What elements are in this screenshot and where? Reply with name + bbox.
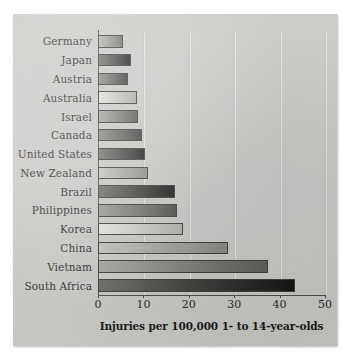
category-label: Japan: [61, 54, 92, 66]
bar: [98, 223, 183, 236]
gridline-50: [325, 32, 327, 295]
category-label: Israel: [61, 111, 92, 123]
bar: [98, 167, 148, 180]
category-label: China: [60, 242, 92, 254]
bar-row: Canada: [98, 126, 325, 145]
bar-row: Brazil: [98, 182, 325, 201]
bar-row: Vietnam: [98, 257, 325, 276]
bar-row: Philippines: [98, 201, 325, 220]
bar: [98, 54, 131, 67]
bar: [98, 185, 175, 198]
bar: [98, 148, 145, 161]
bar: [98, 91, 137, 104]
category-label: Vietnam: [47, 261, 92, 273]
category-label: South Africa: [24, 280, 92, 292]
category-label: Brazil: [60, 186, 92, 198]
bar-row: United States: [98, 145, 325, 164]
bar-row: China: [98, 239, 325, 258]
category-label: Germany: [43, 35, 92, 47]
bar: [98, 260, 268, 273]
plot-area: GermanyJapanAustriaAustraliaIsraelCanada…: [98, 32, 325, 295]
bar-row: Australia: [98, 88, 325, 107]
bar-row: South Africa: [98, 276, 325, 295]
x-tick-label: 30: [227, 298, 241, 311]
category-label: United States: [18, 148, 92, 160]
bar-row: Israel: [98, 107, 325, 126]
bar: [98, 242, 228, 255]
x-axis-title: Injuries per 100,000 1- to 14-year-olds: [98, 320, 325, 332]
x-axis-line: [98, 295, 325, 296]
bar: [98, 73, 128, 86]
category-label: Canada: [51, 129, 92, 141]
bar-row: Austria: [98, 70, 325, 89]
bar: [98, 279, 295, 292]
x-tick-label: 10: [136, 298, 150, 311]
bar: [98, 204, 177, 217]
bar-row: Japan: [98, 51, 325, 70]
x-tick-label: 40: [273, 298, 287, 311]
category-label: Philippines: [32, 204, 92, 216]
bar: [98, 129, 142, 142]
x-tick-label: 0: [95, 298, 102, 311]
bar-row: New Zealand: [98, 164, 325, 183]
bar-row: Germany: [98, 32, 325, 51]
bar: [98, 110, 138, 123]
x-tick-label: 50: [318, 298, 332, 311]
bar-row: Korea: [98, 220, 325, 239]
category-label: Austria: [53, 73, 92, 85]
category-label: Korea: [60, 223, 92, 235]
x-tick-label: 20: [182, 298, 196, 311]
bar: [98, 35, 123, 48]
category-label: Australia: [43, 92, 92, 104]
category-label: New Zealand: [20, 167, 92, 179]
chart-panel: GermanyJapanAustriaAustraliaIsraelCanada…: [13, 14, 337, 346]
bar-chart-figure: GermanyJapanAustriaAustraliaIsraelCanada…: [0, 0, 350, 360]
